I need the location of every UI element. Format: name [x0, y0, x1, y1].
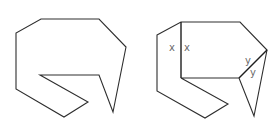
- dissection-diagram: x x y y: [0, 0, 277, 124]
- label-x-right: x: [184, 42, 190, 53]
- original-shape: [16, 19, 126, 117]
- dissected-shape: x x y y: [157, 22, 267, 118]
- label-x-left: x: [169, 42, 175, 53]
- label-y-upper: y: [245, 55, 251, 66]
- label-y-lower: y: [250, 67, 256, 78]
